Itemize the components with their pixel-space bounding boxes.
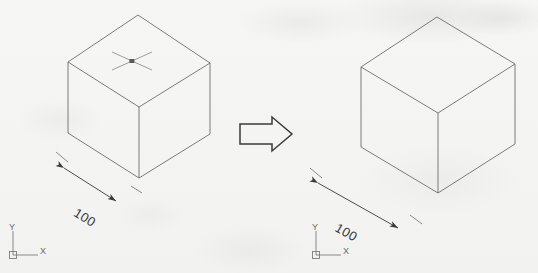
left-dimension-line[interactable] (64, 168, 116, 201)
right-dimension-line[interactable] (318, 183, 398, 228)
right-cube-group[interactable] (361, 17, 515, 193)
left-cube-edge-bottom-left (68, 133, 139, 178)
transform-arrow-icon[interactable] (240, 117, 292, 151)
left-ucs-icon[interactable] (10, 231, 39, 259)
left-dimension-group[interactable] (56, 152, 142, 201)
left-dimension-extension-lower (131, 186, 142, 193)
left-dimension-extension-upper (56, 152, 68, 162)
right-cube-edge-bottom-left (361, 147, 438, 193)
cross-grip-marker-icon[interactable] (112, 52, 152, 70)
left-cube-group[interactable] (68, 15, 210, 178)
cad-vector-layer (0, 0, 538, 273)
right-ucs-icon[interactable] (313, 231, 342, 259)
right-dimension-group[interactable] (310, 168, 422, 228)
left-cube-top-face[interactable] (68, 15, 210, 107)
left-cube-edge-bottom-right (139, 134, 210, 178)
right-cube-top-face[interactable] (361, 17, 515, 113)
right-cube-edge-bottom-right (438, 144, 515, 193)
drawing-canvas: 100 Y X 100 Y X (0, 0, 538, 273)
right-dimension-extension-lower (410, 215, 422, 224)
right-dimension-extension-upper (310, 168, 322, 178)
